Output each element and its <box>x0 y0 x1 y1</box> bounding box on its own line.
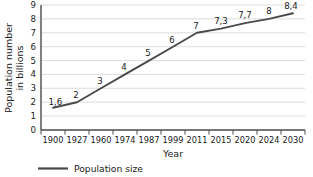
y-tick-9: 9 <box>31 0 36 10</box>
point-label-1974: 4 <box>121 62 126 72</box>
x-tick-2011: 2011 <box>187 135 208 145</box>
y-tick-8: 8 <box>31 14 36 24</box>
y-axis-tick-labels: 0 1 2 3 4 5 6 7 8 9 <box>31 0 36 135</box>
x-tick-2020: 2020 <box>235 135 256 145</box>
x-tick-2024: 2024 <box>259 135 280 145</box>
x-tick-1900: 1900 <box>43 135 64 145</box>
x-tick-1927: 1927 <box>67 135 88 145</box>
y-tick-5: 5 <box>31 56 36 66</box>
x-tick-1999: 1999 <box>163 135 184 145</box>
point-label-2011: 7 <box>193 21 198 31</box>
x-axis-tick-labels: 1900 1927 1960 1974 1987 1999 2011 2015 … <box>43 135 304 145</box>
y-axis-title-line2: in billions <box>14 45 25 90</box>
y-tick-6: 6 <box>31 42 36 52</box>
point-label-1960: 3 <box>97 76 102 86</box>
y-tick-4: 4 <box>31 69 36 79</box>
chart-canvas: 0 1 2 3 4 5 6 7 8 9 1900 1927 1960 1974 … <box>0 0 313 177</box>
point-label-2030: 8,4 <box>284 1 298 11</box>
y-tick-2: 2 <box>31 97 36 107</box>
x-tick-1987: 1987 <box>139 135 160 145</box>
point-label-1987: 5 <box>145 48 150 58</box>
x-tick-1960: 1960 <box>91 135 112 145</box>
point-label-2015: 7,3 <box>214 16 228 26</box>
point-label-2020: 7,7 <box>238 10 252 20</box>
y-tick-7: 7 <box>31 28 36 38</box>
plot-area-background <box>41 5 305 130</box>
chart-legend: Population size <box>38 163 143 174</box>
y-tick-3: 3 <box>31 83 36 93</box>
x-tick-1974: 1974 <box>115 135 136 145</box>
point-label-1927: 2 <box>73 90 78 100</box>
point-label-1900: 1,6 <box>49 97 63 107</box>
x-tick-2015: 2015 <box>211 135 232 145</box>
point-label-1999: 6 <box>169 35 174 45</box>
legend-label-population-size: Population size <box>74 163 143 174</box>
point-label-2024: 8 <box>266 6 271 16</box>
population-line-chart: 0 1 2 3 4 5 6 7 8 9 1900 1927 1960 1974 … <box>0 0 313 177</box>
x-axis-title: Year <box>162 148 183 159</box>
y-tick-1: 1 <box>31 111 36 121</box>
x-tick-2030: 2030 <box>283 135 304 145</box>
y-axis-title: Population number in billions <box>3 23 25 113</box>
y-axis-title-line1: Population number <box>3 23 14 113</box>
y-tick-0: 0 <box>31 125 36 135</box>
